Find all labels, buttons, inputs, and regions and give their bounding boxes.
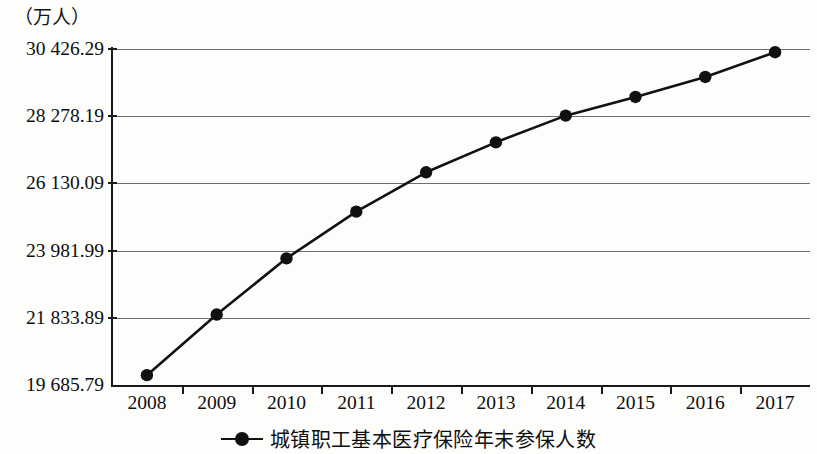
data-point xyxy=(350,205,362,217)
legend-label: 城镇职工基本医疗保险年末参保人数 xyxy=(270,424,596,453)
series-layer xyxy=(0,0,817,454)
data-point xyxy=(699,71,711,83)
data-point xyxy=(280,252,292,264)
data-point xyxy=(420,166,432,178)
data-point xyxy=(141,369,153,381)
data-point xyxy=(211,308,223,320)
legend-dot-icon xyxy=(235,432,249,446)
series-line-urban-employee-insurance xyxy=(147,52,775,375)
data-point xyxy=(560,109,572,121)
series-data-points xyxy=(141,46,782,381)
data-point xyxy=(769,46,781,58)
data-point xyxy=(490,136,502,148)
legend-marker-icon xyxy=(221,432,263,446)
chart-container: （万人） 30 426.2928 278.1926 130.0923 981.9… xyxy=(0,0,817,454)
legend: 城镇职工基本医疗保险年末参保人数 xyxy=(0,424,817,453)
data-point xyxy=(629,91,641,103)
